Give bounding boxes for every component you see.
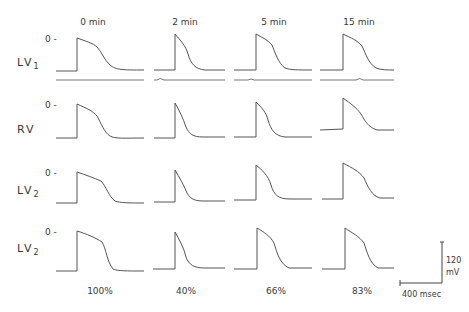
reference-line-15min — [320, 79, 394, 81]
scale-voltage-unit: mV — [446, 268, 460, 277]
trace-lv2a-15min — [322, 163, 394, 199]
trace-rv-15min — [320, 98, 394, 130]
column-header-5min: 5 min — [261, 17, 287, 27]
traces-row-lv2-b — [56, 228, 394, 271]
trace-lv1-5min — [234, 34, 312, 70]
row-label-lv1: LV1 — [17, 56, 41, 71]
svg-text:LV1: LV1 — [17, 56, 41, 71]
row-label-lv2-b: LV2 — [17, 242, 41, 257]
trace-lv2a-2min — [154, 170, 225, 202]
reference-line-2min — [154, 79, 225, 81]
zero-marker-row0: 0 - — [45, 34, 57, 44]
zero-marker-row3: 0 - — [45, 227, 57, 237]
percent-label-5min: 66% — [266, 286, 286, 296]
trace-lv2a-5min — [234, 165, 312, 200]
trace-rv-2min — [154, 103, 225, 138]
row-label-lv2-a: LV2 — [17, 184, 41, 199]
percent-label-15min: 83% — [352, 286, 372, 296]
scale-voltage-value: 120 — [446, 256, 461, 265]
svg-text:LV2: LV2 — [17, 242, 41, 257]
trace-lv1-0min — [56, 38, 144, 71]
trace-lv1-15min — [320, 34, 394, 70]
percent-label-0min: 100% — [87, 286, 113, 296]
column-header-0min: 0 min — [80, 17, 106, 27]
trace-lv2a-0min — [56, 172, 144, 203]
action-potential-figure: 0 min 2 min 5 min 15 min LV1 RV LV2 LV2 … — [0, 0, 469, 312]
scale-time-label: 400 msec — [402, 290, 441, 299]
zero-marker-row2: 0 - — [45, 168, 57, 178]
svg-text:LV2: LV2 — [17, 184, 41, 199]
scale-bar: 120 mV 400 msec — [400, 242, 461, 299]
row-label-rv: RV — [17, 123, 36, 136]
trace-rv-0min — [56, 104, 144, 138]
trace-rv-5min — [234, 102, 312, 137]
zero-marker-row1: 0 - — [45, 100, 57, 110]
trace-lv2b-0min — [56, 231, 144, 271]
trace-lv2b-5min — [234, 228, 312, 269]
traces-row-rv — [56, 98, 394, 138]
trace-lv2b-2min — [153, 232, 225, 269]
trace-lv2b-15min — [322, 228, 394, 269]
percent-label-2min: 40% — [176, 286, 196, 296]
traces-row-lv2-a — [56, 163, 394, 203]
reference-line-5min — [234, 79, 312, 80]
column-header-2min: 2 min — [172, 17, 198, 27]
traces-row-lv1 — [56, 34, 394, 80]
svg-text:RV: RV — [17, 123, 36, 136]
column-header-15min: 15 min — [343, 17, 374, 27]
trace-lv1-2min — [154, 34, 225, 70]
